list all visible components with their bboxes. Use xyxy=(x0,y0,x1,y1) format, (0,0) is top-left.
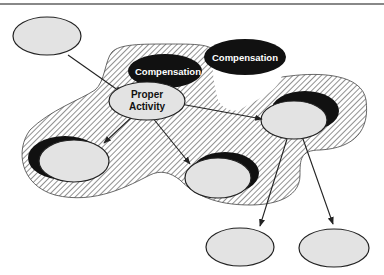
compensation-outer-label: Compensation xyxy=(212,52,278,63)
right-activity-node xyxy=(261,101,327,139)
top-left-activity-node xyxy=(13,17,81,55)
edge-right-to-bottomright xyxy=(303,139,333,224)
proper-activity-label-line1: Proper xyxy=(131,89,163,100)
compensation-diagram: Compensation Compensation Proper Activit… xyxy=(0,0,384,275)
bottom-right-activity-node xyxy=(299,229,369,267)
left-activity-node xyxy=(39,140,109,182)
bottom-left-activity-node xyxy=(206,228,274,266)
compensation-inner-label: Compensation xyxy=(135,66,201,77)
proper-activity-label-line2: Activity xyxy=(129,101,166,112)
middle-activity-node xyxy=(185,158,251,198)
